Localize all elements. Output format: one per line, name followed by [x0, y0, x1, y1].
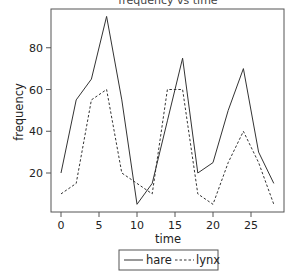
x-tick-label: 10 — [130, 219, 144, 232]
legend-hare-label: hare — [146, 253, 172, 267]
y-tick-label: 60 — [29, 84, 43, 97]
y-axis-label: frequency — [12, 83, 26, 141]
x-tick-label: 5 — [96, 219, 103, 232]
y-tick-label: 20 — [29, 167, 43, 180]
legend-lynx-label: lynx — [196, 253, 220, 267]
hare-line — [61, 16, 274, 204]
x-tick-label: 15 — [168, 219, 182, 232]
y-tick-label: 40 — [29, 125, 43, 138]
lynx-line — [61, 90, 274, 205]
x-axis-label: time — [155, 232, 181, 246]
x-tick-label: 20 — [206, 219, 220, 232]
line-chart: frequency vs time 20406080 0510152025 ti… — [0, 0, 289, 273]
legend: hare lynx — [119, 250, 220, 270]
x-tick-label: 25 — [244, 219, 258, 232]
chart-title: frequency vs time — [118, 0, 217, 7]
series-lines — [61, 16, 274, 204]
plot-frame — [51, 9, 284, 212]
x-axis: 0510152025 — [58, 212, 259, 232]
y-tick-label: 80 — [29, 42, 43, 55]
y-axis: 20406080 — [29, 42, 51, 180]
x-tick-label: 0 — [58, 219, 65, 232]
